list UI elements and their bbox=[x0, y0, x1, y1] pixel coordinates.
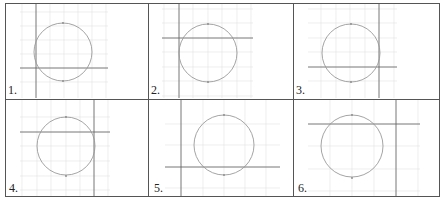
center-point bbox=[351, 114, 353, 116]
circle-curve bbox=[322, 24, 380, 82]
center-point bbox=[62, 80, 64, 82]
center-point bbox=[207, 81, 209, 83]
grid-lines bbox=[162, 4, 253, 98]
panel-4-graph[interactable] bbox=[20, 100, 110, 196]
grid-lines bbox=[20, 4, 108, 98]
choice-label-4: 4. bbox=[9, 181, 18, 195]
center-point bbox=[350, 23, 352, 25]
center-point bbox=[65, 116, 67, 118]
center-point bbox=[62, 22, 64, 24]
center-point bbox=[351, 177, 353, 179]
center-point bbox=[350, 81, 352, 83]
center-point bbox=[65, 175, 67, 177]
grid-lines bbox=[20, 100, 110, 196]
grid-lines bbox=[308, 100, 420, 196]
choice-label-6: 6. bbox=[298, 181, 307, 195]
center-point bbox=[223, 114, 225, 116]
answer-choices-grid: 1. 2. 3. 4. bbox=[0, 0, 445, 201]
circle-curve bbox=[34, 23, 92, 81]
panel-3-graph[interactable] bbox=[308, 4, 397, 98]
center-point bbox=[207, 23, 209, 25]
panel-6-graph[interactable] bbox=[308, 100, 420, 196]
choice-label-3: 3. bbox=[296, 83, 305, 97]
panel-5-graph[interactable] bbox=[165, 100, 280, 196]
panel-2-graph[interactable] bbox=[162, 4, 253, 98]
choice-label-2: 2. bbox=[151, 83, 160, 97]
grid-lines bbox=[165, 100, 280, 196]
choice-label-1: 1. bbox=[8, 83, 17, 97]
choice-label-5: 5. bbox=[154, 181, 163, 195]
panel-1-graph[interactable] bbox=[20, 4, 108, 98]
center-point bbox=[223, 174, 225, 176]
grid-lines bbox=[308, 4, 397, 98]
